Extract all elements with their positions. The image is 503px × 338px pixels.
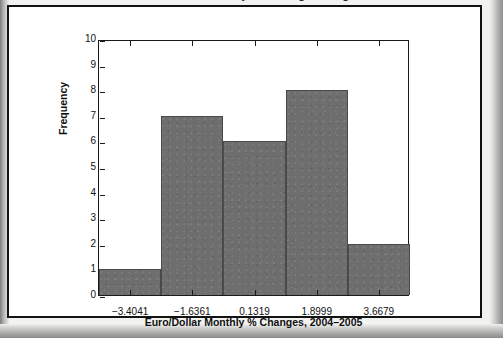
- y-axis-tick-label: 10: [85, 34, 96, 44]
- y-axis-tick-mark: [100, 195, 105, 196]
- y-axis-tick-label: 0: [90, 290, 96, 300]
- y-axis-tick-mark: [100, 67, 105, 68]
- x-axis-tick-mark: [379, 290, 380, 295]
- y-axis-tick-label: 2: [90, 239, 96, 249]
- x-axis-tick-mark: [192, 290, 193, 295]
- x-axis-tick-mark: [317, 290, 318, 295]
- y-axis-tick-mark: [100, 41, 105, 42]
- histogram-bar: [348, 244, 410, 295]
- y-axis-tick-label: 5: [90, 162, 96, 172]
- y-axis-tick-label: 7: [90, 111, 96, 121]
- x-axis-tick-mark-top: [130, 41, 131, 46]
- y-axis-tick-label: 3: [90, 213, 96, 223]
- x-axis-tick-mark: [255, 290, 256, 295]
- x-axis-tick-mark: [130, 290, 131, 295]
- y-axis-tick-label: 9: [90, 60, 96, 70]
- plot-area: 012345678910−3.4041−1.63610.13191.89993.…: [98, 40, 409, 296]
- y-axis-tick-label: 1: [90, 264, 96, 274]
- y-axis-tick-mark: [100, 169, 105, 170]
- x-axis-tick-mark-top: [192, 41, 193, 46]
- histogram-bar: [223, 141, 285, 295]
- y-axis-tick-mark: [100, 143, 105, 144]
- y-axis-tick-label: 4: [90, 188, 96, 198]
- y-axis-tick-mark: [100, 92, 105, 93]
- x-axis-label: Euro/Dollar Monthly % Changes, 2004–2005: [98, 316, 409, 328]
- scan-edge-right-shadow: [489, 0, 503, 338]
- x-axis-tick-mark-top: [379, 41, 380, 46]
- y-axis-tick-label: 6: [90, 136, 96, 146]
- histogram-bar: [161, 116, 223, 295]
- histogram-bar: [286, 90, 348, 295]
- x-axis-tick-mark-top: [317, 41, 318, 46]
- y-axis-tick-label: 8: [90, 85, 96, 95]
- y-axis-tick-mark: [100, 297, 105, 298]
- y-axis-label: Frequency: [57, 82, 69, 135]
- chart-title: Euro/Dollar Monthly Percentage Changes: [0, 0, 503, 1]
- figure-frame: Frequency 012345678910−3.4041−1.63610.13…: [7, 5, 482, 318]
- y-axis-tick-mark: [100, 220, 105, 221]
- y-axis-tick-mark: [100, 118, 105, 119]
- y-axis-tick-mark: [100, 246, 105, 247]
- x-axis-tick-mark-top: [255, 41, 256, 46]
